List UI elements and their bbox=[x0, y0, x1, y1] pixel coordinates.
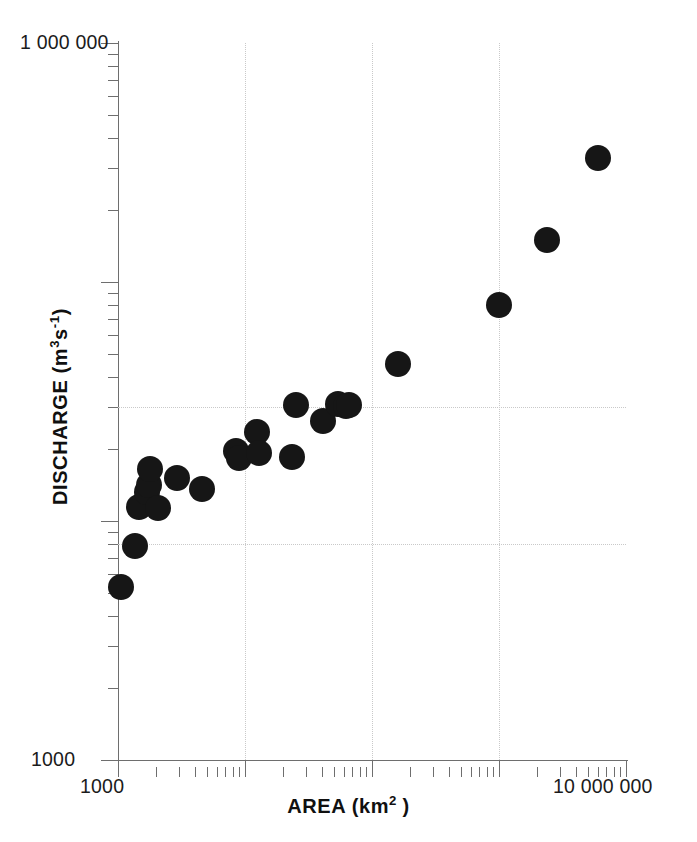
x-tick-minor bbox=[239, 767, 240, 777]
data-point bbox=[189, 476, 215, 502]
y-tick-minor bbox=[108, 407, 118, 408]
data-point bbox=[122, 533, 148, 559]
x-tick-minor bbox=[179, 767, 180, 777]
x-tick-minor bbox=[461, 767, 462, 777]
y-tick-minor bbox=[108, 319, 118, 320]
y-axis-title: DISCHARGE (m3s-1) bbox=[49, 257, 72, 557]
y-axis-title-lead: DISCHARGE (m bbox=[49, 348, 71, 505]
y-tick-major bbox=[101, 282, 118, 283]
y-tick-minor bbox=[108, 688, 118, 689]
y-tick-major bbox=[101, 760, 118, 761]
data-point bbox=[486, 292, 512, 318]
x-tick-minor bbox=[207, 767, 208, 777]
y-tick-minor bbox=[108, 54, 118, 55]
x-tick-minor bbox=[433, 767, 434, 777]
y-tick-minor bbox=[108, 377, 118, 378]
x-tick-minor bbox=[410, 767, 411, 777]
data-point bbox=[534, 227, 560, 253]
x-tick-minor bbox=[283, 767, 284, 777]
x-tick-minor bbox=[479, 767, 480, 777]
y-tick-minor bbox=[108, 354, 118, 355]
data-point bbox=[108, 574, 134, 600]
y-tick-minor bbox=[108, 293, 118, 294]
y-tick-minor bbox=[108, 80, 118, 81]
y-axis-title-exponent-3: 3 bbox=[47, 340, 62, 348]
x-tick-minor bbox=[195, 767, 196, 777]
x-tick-minor bbox=[366, 767, 367, 777]
y-tick-minor bbox=[108, 210, 118, 211]
gridline-vertical bbox=[245, 43, 246, 760]
y-tick-minor bbox=[108, 138, 118, 139]
x-axis-title-close: ) bbox=[403, 795, 410, 817]
x-tick-minor bbox=[344, 767, 345, 777]
data-point bbox=[585, 145, 611, 171]
x-tick-minor bbox=[306, 767, 307, 777]
x-tick-minor bbox=[471, 767, 472, 777]
y-axis-title-close: ) bbox=[49, 308, 71, 315]
y-tick-major bbox=[101, 521, 118, 522]
data-point bbox=[385, 351, 411, 377]
y-tick-minor bbox=[108, 532, 118, 533]
gridline-horizontal bbox=[118, 544, 626, 545]
plot-area bbox=[118, 43, 626, 760]
gridline-horizontal bbox=[118, 407, 626, 408]
x-axis-title-exponent: 2 bbox=[389, 793, 397, 808]
data-point bbox=[164, 465, 190, 491]
x-tick-major bbox=[372, 760, 373, 777]
y-axis-ticks bbox=[101, 43, 118, 760]
x-tick-minor bbox=[322, 767, 323, 777]
x-tick-minor bbox=[493, 767, 494, 777]
x-tick-minor bbox=[449, 767, 450, 777]
gridline-vertical bbox=[499, 43, 500, 760]
y-tick-minor bbox=[108, 544, 118, 545]
x-tick-minor bbox=[233, 767, 234, 777]
gridline-vertical bbox=[372, 43, 373, 760]
data-point bbox=[145, 495, 171, 521]
x-tick-minor bbox=[360, 767, 361, 777]
x-axis-title-lead: AREA (km bbox=[287, 795, 389, 817]
y-axis-title-exponent-neg1: -1 bbox=[47, 315, 62, 328]
scatter-figure: 1 000 000 1000 1000 10 000 000 AREA (km2… bbox=[0, 0, 697, 842]
y-tick-minor bbox=[108, 449, 118, 450]
y-tick-label-top: 1 000 000 bbox=[20, 31, 109, 54]
x-tick-minor bbox=[225, 767, 226, 777]
data-point bbox=[336, 392, 362, 418]
y-tick-minor bbox=[108, 96, 118, 97]
x-tick-minor bbox=[487, 767, 488, 777]
x-axis-title: AREA (km2) bbox=[0, 795, 697, 818]
y-tick-minor bbox=[108, 335, 118, 336]
y-tick-minor bbox=[108, 616, 118, 617]
x-tick-minor bbox=[334, 767, 335, 777]
y-tick-minor bbox=[108, 66, 118, 67]
x-tick-major bbox=[499, 760, 500, 777]
y-tick-minor bbox=[108, 305, 118, 306]
x-tick-minor bbox=[352, 767, 353, 777]
data-point bbox=[283, 392, 309, 418]
data-point bbox=[279, 444, 305, 470]
y-tick-minor bbox=[108, 168, 118, 169]
x-tick-minor bbox=[156, 767, 157, 777]
y-axis-title-mid: s bbox=[49, 328, 71, 340]
y-tick-minor bbox=[108, 646, 118, 647]
y-tick-minor bbox=[108, 558, 118, 559]
y-tick-label-bottom: 1000 bbox=[31, 748, 75, 771]
x-tick-major bbox=[245, 760, 246, 777]
data-point bbox=[246, 440, 272, 466]
x-tick-minor bbox=[537, 767, 538, 777]
x-tick-minor bbox=[217, 767, 218, 777]
y-tick-minor bbox=[108, 115, 118, 116]
x-axis-ticks bbox=[118, 760, 626, 777]
